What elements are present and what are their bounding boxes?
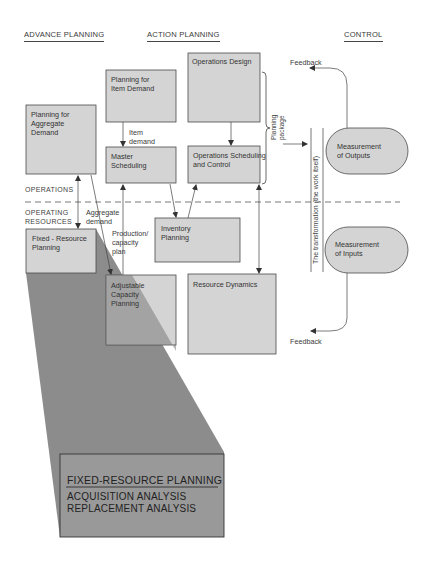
text-line: Planning: [32, 243, 87, 252]
text-line: Adjustable: [111, 281, 145, 290]
text-line: Aggregate: [86, 208, 119, 217]
text-line: Aggregate: [31, 119, 69, 128]
header-control: CONTROL: [344, 30, 383, 42]
text-line: RESOURCES: [25, 217, 72, 226]
text-line: Item: [129, 128, 155, 137]
label-feedback-top: Feedback: [290, 58, 322, 67]
text-line: capacity: [112, 238, 148, 247]
text-line: of Outputs: [337, 151, 381, 160]
label-planning-aggregate-demand: Planning for Aggregate Demand: [31, 110, 69, 137]
header-advance-planning: ADVANCE PLANNING: [24, 30, 104, 42]
text-line: Operations Design: [192, 57, 252, 66]
text-line: Planning: [111, 299, 145, 308]
text-line: Measurement: [337, 142, 381, 151]
label-operations: OPERATIONS: [25, 186, 73, 193]
label-measurement-outputs: Measurement of Outputs: [337, 142, 381, 160]
text-line: Production/: [112, 229, 148, 238]
label-planning-item-demand: Planning for Item Demand: [111, 75, 154, 93]
callout-item-acquisition: ACQUISITION ANALYSIS: [67, 491, 186, 503]
label-resource-dynamics: Resource Dynamics: [193, 280, 257, 289]
text-line: Planning for: [111, 75, 154, 84]
label-measurement-inputs: Measurement of Inputs: [335, 240, 379, 258]
text-line: Planning: [161, 233, 191, 242]
text-line: of Inputs: [335, 249, 379, 258]
text-line: plan: [112, 247, 148, 256]
label-operations-design: Operations Design: [192, 57, 252, 66]
text-line: Demand: [31, 128, 69, 137]
label-master-scheduling: Master Scheduling: [111, 152, 147, 170]
label-item-demand: Item demand: [129, 128, 155, 146]
text-line: package: [278, 115, 286, 140]
text-line: Measurement: [335, 240, 379, 249]
label-feedback-bottom: Feedback: [290, 337, 322, 346]
label-planning-package: Planning package: [270, 115, 286, 140]
text-line: Scheduling: [111, 161, 147, 170]
label-adjustable-capacity: Adjustable Capacity Planning: [111, 281, 145, 308]
text-line: Fixed - Resource: [32, 234, 87, 243]
text-line: Planning for: [31, 110, 69, 119]
label-transformation: The transformation (the work itself): [312, 156, 319, 264]
callout-item-replacement: REPLACEMENT ANALYSIS: [67, 503, 196, 515]
text-line: Operations Scheduling: [193, 151, 266, 160]
label-aggregate-demand: Aggregate demand: [86, 208, 119, 226]
text-line: demand: [129, 137, 155, 146]
text-line: OPERATING: [25, 208, 72, 217]
text-line: Capacity: [111, 290, 145, 299]
text-line: Planning: [270, 115, 278, 140]
header-action-planning: ACTION PLANNING: [147, 30, 220, 42]
text-line: Master: [111, 152, 147, 161]
callout-title: FIXED-RESOURCE PLANNING: [67, 474, 222, 486]
text-line: Inventory: [161, 224, 191, 233]
label-operations-scheduling: Operations Scheduling and Control: [193, 151, 266, 169]
text-line: and Control: [193, 160, 266, 169]
label-fixed-resource-planning: Fixed - Resource Planning: [32, 234, 87, 252]
label-production-capacity-plan: Production/ capacity plan: [112, 229, 148, 256]
label-inventory-planning: Inventory Planning: [161, 224, 191, 242]
text-line: demand: [86, 217, 119, 226]
label-operating-resources: OPERATING RESOURCES: [25, 208, 72, 226]
text-line: Item Demand: [111, 84, 154, 93]
text-line: Resource Dynamics: [193, 280, 257, 289]
